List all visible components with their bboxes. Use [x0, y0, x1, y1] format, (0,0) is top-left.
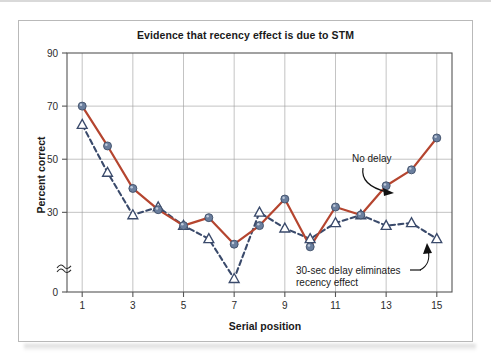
plot-frame: [67, 53, 452, 292]
x-tick-label: 5: [181, 300, 187, 311]
annotation-delay-line1: 30-sec delay eliminates: [296, 265, 401, 276]
data-point-marker: [104, 142, 112, 150]
gridlines: [67, 53, 452, 292]
data-point-marker: [433, 134, 441, 142]
data-point-marker: [407, 218, 417, 227]
marker-highlight: [409, 167, 412, 170]
data-point-marker: [129, 184, 137, 192]
marker-highlight: [130, 186, 133, 189]
data-point-marker: [432, 234, 442, 243]
annotation-delay-line2: recency effect: [296, 277, 358, 288]
y-axis-break-icon: [57, 265, 71, 273]
marker-highlight: [384, 183, 387, 186]
x-tick-label: 13: [381, 300, 393, 311]
x-tick-label: 9: [282, 300, 288, 311]
data-point-marker: [357, 211, 365, 219]
data-point-marker: [103, 167, 113, 176]
x-tick-label: 7: [231, 300, 237, 311]
data-point-marker: [78, 102, 86, 110]
data-point-marker: [205, 214, 213, 222]
marker-highlight: [206, 215, 209, 218]
x-tick-label: 15: [431, 300, 443, 311]
data-point-marker: [128, 210, 138, 219]
axis-ticks: [62, 53, 437, 297]
data-point-marker: [306, 243, 314, 251]
y-tick-label: 70: [47, 101, 59, 112]
x-tick-label: 1: [79, 300, 85, 311]
series-line: [82, 125, 437, 279]
marker-highlight: [434, 135, 437, 138]
x-axis-label: Serial position: [229, 320, 301, 332]
data-point-marker: [77, 120, 87, 129]
data-point-marker: [407, 166, 415, 174]
y-tick-label: 0: [52, 287, 58, 298]
marker-highlight: [282, 197, 285, 200]
data-point-marker: [280, 223, 290, 232]
marker-highlight: [333, 204, 336, 207]
figure-container: Evidence that recency effect is due to S…: [0, 0, 491, 364]
marker-highlight: [156, 207, 159, 210]
marker-highlight: [308, 244, 311, 247]
y-tick-label: 30: [47, 207, 59, 218]
y-axis-label: Percent correct: [35, 136, 47, 214]
chart-plot-area: 03050709013579111315 No delay30-sec dela…: [0, 0, 491, 364]
data-point-marker: [256, 222, 264, 230]
data-point-marker: [230, 240, 238, 248]
data-point-marker: [255, 207, 265, 216]
data-point-marker: [281, 195, 289, 203]
annotation-arrowhead-delay: [423, 243, 432, 254]
marker-highlight: [105, 143, 108, 146]
marker-highlight: [232, 242, 235, 245]
marker-highlight: [181, 223, 184, 226]
marker-highlight: [358, 212, 361, 215]
data-point-marker: [180, 222, 188, 230]
marker-highlight: [257, 223, 260, 226]
x-tick-label: 3: [130, 300, 136, 311]
y-tick-label: 50: [47, 154, 59, 165]
marker-highlight: [80, 104, 83, 107]
x-tick-label: 11: [330, 300, 341, 311]
data-point-marker: [331, 203, 339, 211]
data-point-marker: [154, 206, 162, 214]
annotation-no-delay: No delay: [352, 153, 391, 164]
y-tick-label: 90: [47, 48, 59, 59]
